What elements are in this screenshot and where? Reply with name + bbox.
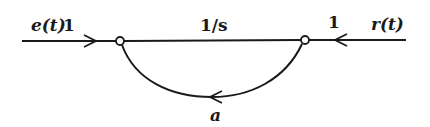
node-1	[116, 37, 124, 45]
forward-branch	[124, 40, 301, 41]
feedback-branch	[122, 44, 302, 97]
input-gain-label: 1	[63, 15, 75, 35]
input-signal-label: e(t)	[31, 15, 66, 35]
output-signal-label: r(t)	[371, 14, 404, 34]
node-2	[301, 36, 309, 44]
output-gain-label: 1	[328, 12, 340, 32]
signal-flow-graph: e(t) 1 1/s 1 r(t) a	[0, 0, 430, 127]
feedback-gain-label: a	[210, 105, 221, 125]
forward-gain-label: 1/s	[200, 15, 228, 35]
